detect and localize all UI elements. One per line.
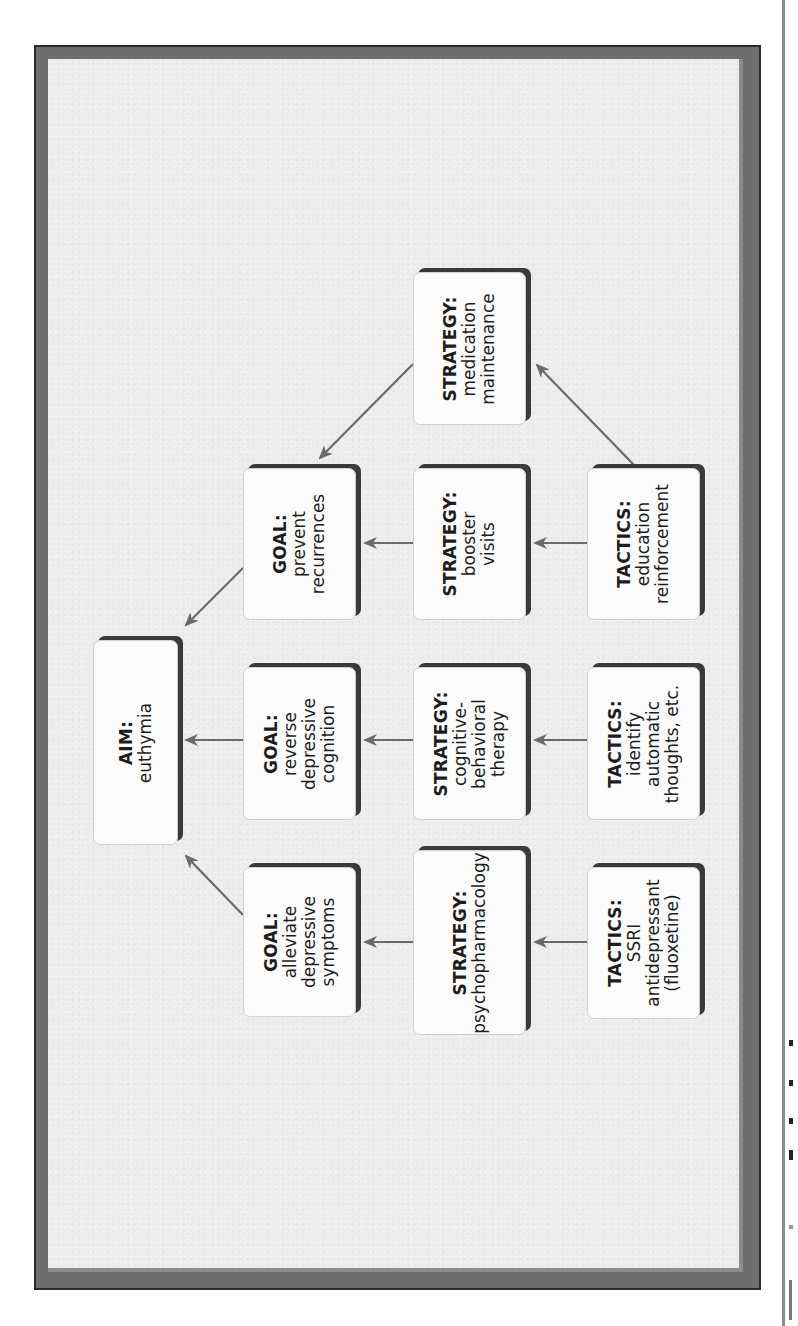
node-line: reinforcement — [653, 484, 672, 604]
node-kind-label: TACTICS: — [615, 484, 634, 604]
node-line: alleviate — [280, 896, 299, 988]
node-strategy-cognitive-behavioral-therapy: STRATEGY: cognitive- behavioral therapy — [413, 667, 526, 820]
node-kind-label: AIM: — [116, 702, 135, 782]
node-line: psychopharmacology — [470, 852, 489, 1034]
node-tactics-ssri-antidepressant: TACTICS: SSRI antidepressant (fluoxetine… — [587, 867, 700, 1019]
node-aim: AIM: euthymia — [93, 640, 178, 845]
node-line: recurrences — [309, 494, 328, 594]
node-line: reverse — [280, 697, 299, 789]
node-line: booster — [460, 492, 479, 597]
node-strategy-medication-maintenance: STRATEGY: medication maintenance — [413, 272, 526, 425]
node-line: cognition — [319, 697, 338, 789]
arrow-goal-alleviate-to-aim — [186, 856, 243, 915]
node-kind-label: TACTICS: — [605, 879, 624, 1006]
node-kind-label: STRATEGY: — [441, 492, 460, 597]
node-line: SSRI — [624, 879, 643, 1006]
node-line: therapy — [489, 691, 508, 796]
node-line: education — [634, 484, 653, 604]
node-line: identify — [624, 684, 643, 802]
node-kind-label: GOAL: — [261, 896, 280, 988]
node-line: prevent — [290, 494, 309, 594]
arrow-strategy-medication-to-goal-prevent — [320, 364, 413, 458]
node-line: cognitive- — [450, 691, 469, 796]
node-strategy-booster-visits: STRATEGY: booster visits — [413, 468, 526, 620]
node-kind-label: TACTICS: — [605, 684, 624, 802]
node-line: depressive — [300, 697, 319, 789]
arrow-goal-prevent-to-aim — [186, 568, 243, 625]
node-goal-alleviate-depressive-symptoms: GOAL: alleviate depressive symptoms — [243, 867, 356, 1017]
node-line: symptoms — [319, 896, 338, 988]
node-line: antidepressant — [644, 879, 663, 1006]
node-line: thoughts, etc. — [663, 684, 682, 802]
node-goal-prevent-recurrences: GOAL: prevent recurrences — [243, 468, 356, 620]
node-kind-label: STRATEGY: — [431, 691, 450, 796]
node-line: visits — [479, 492, 498, 597]
node-line: automatic — [644, 684, 663, 802]
node-line: behavioral — [470, 691, 489, 796]
node-strategy-psychopharmacology: STRATEGY: psychopharmacology — [413, 850, 526, 1035]
node-kind-label: STRATEGY: — [450, 852, 469, 1034]
node-line: euthymia — [136, 702, 155, 782]
node-line: (fluoxetine) — [663, 879, 682, 1006]
node-tactics-education-reinforcement: TACTICS: education reinforcement — [587, 468, 700, 620]
node-kind-label: GOAL: — [261, 697, 280, 789]
node-kind-label: STRATEGY: — [441, 293, 460, 404]
node-tactics-identify-automatic-thoughts: TACTICS: identify automatic thoughts, et… — [587, 667, 700, 820]
arrow-tactics-education-to-strategy-medication — [537, 365, 634, 465]
node-line: medication — [460, 293, 479, 404]
node-line: maintenance — [479, 293, 498, 404]
node-kind-label: GOAL: — [271, 494, 290, 594]
node-goal-reverse-depressive-cognition: GOAL: reverse depressive cognition — [243, 667, 356, 820]
node-line: depressive — [300, 896, 319, 988]
